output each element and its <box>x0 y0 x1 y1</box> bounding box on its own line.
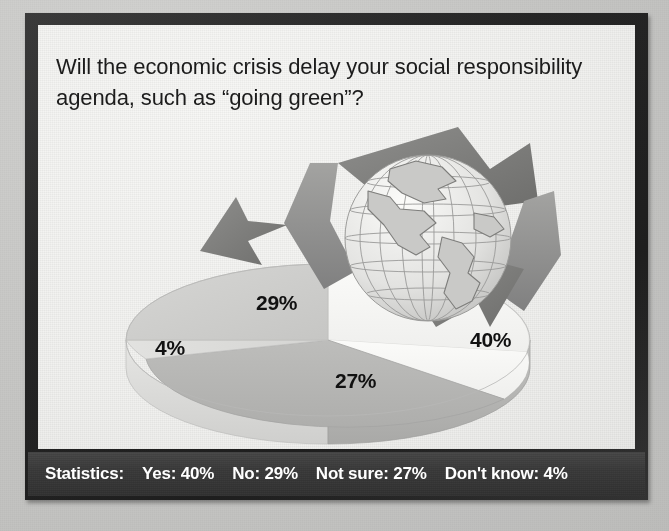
statistics-label: Statistics: <box>45 464 124 484</box>
poll-infographic: Will the economic crisis delay your soci… <box>0 0 669 531</box>
slice-label-yes: 40% <box>470 328 511 352</box>
statistic-dont-know: Don't know: 4% <box>445 464 568 484</box>
statistic-yes: Yes: 40% <box>142 464 214 484</box>
pie-chart: 29% 4% 27% 40% <box>38 105 635 449</box>
slice-label-no: 29% <box>256 291 297 315</box>
infographic-frame: Will the economic crisis delay your soci… <box>25 13 648 500</box>
statistics-bar: Statistics: Yes: 40% No: 29% Not sure: 2… <box>28 452 645 496</box>
question-line-2: agenda, such as “going green”? <box>56 82 616 113</box>
recycle-arrow-lower-left <box>200 197 287 265</box>
statistic-not-sure: Not sure: 27% <box>316 464 427 484</box>
page-title: Will the economic crisis delay your soci… <box>56 51 616 113</box>
content-panel: Will the economic crisis delay your soci… <box>38 25 635 449</box>
statistic-no: No: 29% <box>232 464 298 484</box>
recycle-arrow-left <box>284 163 356 289</box>
slice-label-not-sure: 27% <box>335 369 376 393</box>
question-line-1: Will the economic crisis delay your soci… <box>56 51 616 82</box>
globe-recycling-icon <box>38 105 635 449</box>
slice-label-dont-know: 4% <box>155 336 185 360</box>
